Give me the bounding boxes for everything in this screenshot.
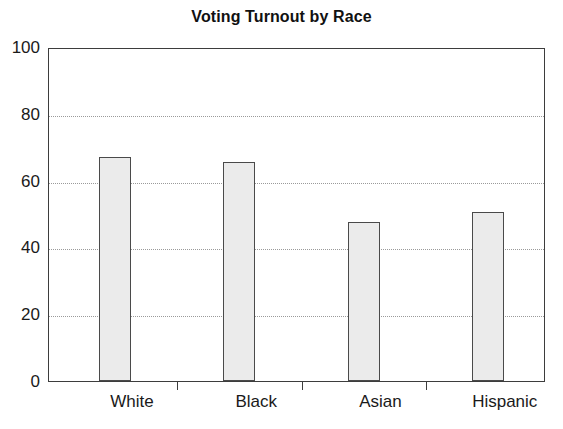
x-axis-tick (177, 382, 178, 390)
x-axis-tick-labels: WhiteBlackAsianHispanic (48, 392, 545, 422)
y-axis-tick-label: 40 (0, 238, 40, 258)
y-axis-tick-labels: 020406080100 (0, 48, 40, 382)
x-axis-tick-label: Asian (359, 392, 402, 412)
chart-title: Voting Turnout by Race (0, 8, 563, 26)
bar (223, 162, 255, 381)
y-axis-tick-label: 20 (0, 305, 40, 325)
x-axis-tick-label: Hispanic (472, 392, 537, 412)
bars-layer (49, 49, 544, 381)
x-axis-tick-label: White (110, 392, 153, 412)
bar (99, 157, 131, 381)
bar (472, 212, 504, 381)
x-axis-tick (426, 382, 427, 390)
y-axis-tick-label: 100 (0, 38, 40, 58)
y-axis-tick-label: 80 (0, 105, 40, 125)
y-axis-tick-label: 60 (0, 172, 40, 192)
x-axis-ticks (48, 382, 545, 390)
bar (348, 222, 380, 381)
plot-area (48, 48, 545, 382)
bar-chart-figure: Voting Turnout by Race 020406080100 Whit… (0, 0, 563, 429)
y-axis-tick-label: 0 (0, 372, 40, 392)
x-axis-tick-label: Black (235, 392, 277, 412)
x-axis-tick (302, 382, 303, 390)
